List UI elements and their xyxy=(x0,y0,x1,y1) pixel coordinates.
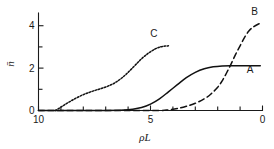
curve-label-b: B xyxy=(251,6,258,17)
y-tick-label: 0 xyxy=(29,105,35,116)
x-tick-label: 10 xyxy=(33,114,45,125)
figure-container: 1050 024 ABC ρL n̄ xyxy=(0,0,274,149)
y-tick-label: 2 xyxy=(29,63,35,74)
y-axis-title: n̄ xyxy=(4,61,16,67)
curve-c xyxy=(55,46,168,111)
curve-labels: ABC xyxy=(150,6,258,75)
x-tick-label: 5 xyxy=(148,114,154,125)
y-axis-ticks xyxy=(39,26,44,111)
curve-label-a: A xyxy=(247,64,254,75)
x-axis-tick-labels: 1050 xyxy=(33,114,266,125)
y-tick-label: 4 xyxy=(29,20,35,31)
chart-plot: 1050 024 ABC ρL n̄ xyxy=(0,0,274,149)
curve-label-c: C xyxy=(150,28,157,39)
x-tick-label: 0 xyxy=(260,114,266,125)
y-axis-tick-labels: 024 xyxy=(29,20,35,116)
x-axis-title: ρL xyxy=(138,131,150,143)
